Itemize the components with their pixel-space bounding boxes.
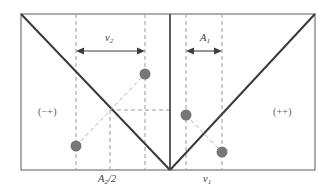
- A1-arrowhead-left: [186, 48, 194, 55]
- descending-diagonal: [21, 14, 170, 170]
- ascending-diagonal: [170, 14, 315, 170]
- A1-arrowhead-right: [214, 48, 222, 55]
- diagram-canvas: [0, 0, 334, 194]
- nu2-label-subscript: 2: [110, 37, 114, 45]
- axis-label-nu1: ν1: [203, 174, 211, 186]
- quadrant-label-plus-plus: (++): [273, 107, 292, 117]
- particle-lower-right-panel: [217, 147, 228, 158]
- quadrant-label-minus-plus: (−+): [38, 107, 57, 117]
- particle-upper-right-panel: [181, 110, 192, 121]
- particle-upper-left-panel: [140, 69, 151, 80]
- axis-label-nu1-subscript: 1: [208, 178, 212, 186]
- axis-label-A2-over-2: A2/2: [98, 174, 116, 186]
- nu2-span: [76, 48, 145, 55]
- nu2-arrowhead-left: [76, 48, 84, 55]
- nu2-arrowhead-right: [137, 48, 145, 55]
- A1-label: A1: [200, 33, 210, 45]
- outer-frame: [21, 14, 315, 170]
- axis-label-A2-suffix: /2: [108, 173, 116, 184]
- A1-label-subscript: 1: [206, 37, 210, 45]
- particle-lower-left-panel: [71, 141, 82, 152]
- A1-span: [186, 48, 222, 55]
- nu2-label: ν2: [105, 33, 113, 45]
- figure-container: (−+) (++) ν2 A1 A2/2 ν1: [0, 0, 334, 194]
